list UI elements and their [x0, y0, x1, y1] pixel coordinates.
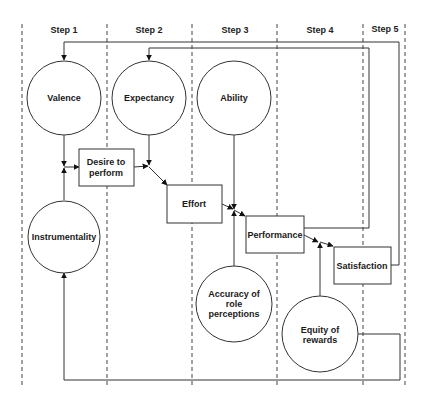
- node-satisfaction: Satisfaction: [334, 247, 391, 284]
- step-labels: Step 1 Step 2 Step 3 Step 4 Step 5: [50, 24, 398, 35]
- svg-text:rewards: rewards: [303, 335, 338, 345]
- svg-text:Ability: Ability: [220, 93, 248, 103]
- expectancy-theory-diagram: Step 1 Step 2 Step 3 Step 4 Step 5: [0, 0, 428, 402]
- node-accuracy-of-role-perceptions: Accuracy of role perceptions: [196, 266, 272, 342]
- svg-text:Expectancy: Expectancy: [124, 93, 174, 103]
- svg-text:Instrumentality: Instrumentality: [32, 232, 97, 242]
- svg-text:Performance: Performance: [247, 230, 302, 240]
- step-5-label: Step 5: [371, 24, 398, 34]
- node-valence: Valence: [27, 61, 101, 135]
- effort-out-connector: [222, 204, 233, 209]
- node-desire-to-perform: Desire to perform: [79, 149, 134, 186]
- node-instrumentality: Instrumentality: [28, 201, 100, 273]
- to-performance-connector: [234, 210, 245, 216]
- svg-text:Valence: Valence: [47, 93, 81, 103]
- svg-text:perceptions: perceptions: [208, 309, 259, 319]
- node-effort: Effort: [167, 185, 222, 223]
- svg-text:Effort: Effort: [182, 199, 206, 209]
- step-4-label: Step 4: [306, 25, 333, 35]
- performance-out-connector: [304, 235, 318, 242]
- desire-out-connector: [134, 166, 148, 167]
- step-2-label: Step 2: [135, 25, 162, 35]
- svg-text:Accuracy of: Accuracy of: [208, 289, 261, 299]
- svg-text:perform: perform: [89, 168, 123, 178]
- svg-text:role: role: [226, 299, 243, 309]
- svg-text:Equity of: Equity of: [301, 325, 340, 335]
- node-expectancy: Expectancy: [112, 61, 186, 135]
- step4-connectors: [304, 235, 333, 296]
- step-3-label: Step 3: [221, 25, 248, 35]
- step1-connectors: [64, 135, 79, 200]
- step3-connectors: [222, 135, 245, 266]
- to-satisfaction-connector: [320, 242, 333, 246]
- node-performance: Performance: [246, 216, 304, 253]
- step-1-label: Step 1: [50, 25, 77, 35]
- node-ability: Ability: [197, 61, 271, 135]
- node-equity-of-rewards: Equity of rewards: [282, 296, 358, 372]
- svg-text:Desire to: Desire to: [87, 157, 126, 167]
- step2-connectors: [134, 135, 167, 185]
- svg-text:Satisfaction: Satisfaction: [336, 261, 387, 271]
- to-effort-connector: [149, 167, 167, 185]
